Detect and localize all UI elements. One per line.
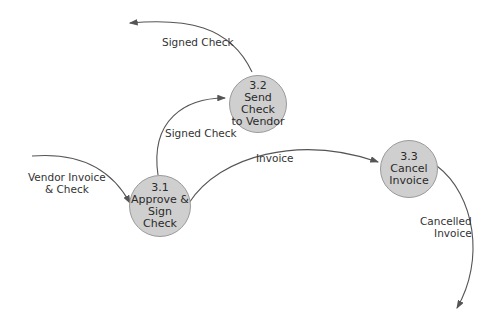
flow-label-line: Cancelled <box>420 215 472 227</box>
process-node-3-2: 3.2 Send Check to Vendor <box>229 75 287 133</box>
flow-label-signed-check-to-send: Signed Check <box>165 127 237 139</box>
flow-label-line: Invoice <box>420 227 472 239</box>
flow-label-signed-check-out: Signed Check <box>162 36 234 48</box>
flow-label-line: & Check <box>28 183 106 195</box>
process-label: Send Check <box>230 92 286 116</box>
process-label: to Vendor <box>231 116 284 128</box>
flow-label-line: Vendor Invoice <box>28 171 106 183</box>
process-label: Invoice <box>389 175 428 187</box>
flow-label-invoice: Invoice <box>256 152 294 164</box>
process-node-3-1: 3.1 Approve & Sign Check <box>129 175 191 237</box>
flow-label-vendor-invoice: Vendor Invoice & Check <box>28 171 106 195</box>
process-label: Check <box>143 218 177 230</box>
process-node-3-3: 3.3 Cancel Invoice <box>380 140 438 198</box>
flow-label-cancelled-invoice: Cancelled Invoice <box>420 215 472 239</box>
data-flow-diagram: 3.1 Approve & Sign Check 3.2 Send Check … <box>0 0 501 322</box>
